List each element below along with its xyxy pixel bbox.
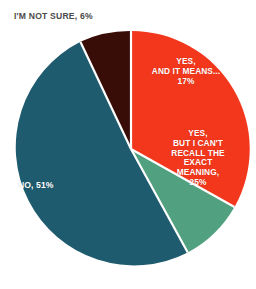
pie-label-im-not-sure: I'M NOT SURE, 6% [14, 11, 93, 21]
pie-label-yes-but-cant-recall: YES, BUT I CAN'T RECALL THE EXACT MEANIN… [152, 129, 244, 188]
pie-label-yes-and-it-means: YES, AND IT MEANS... 17% [140, 57, 232, 86]
pie-chart-page: YES, AND IT MEANS... 17% YES, BUT I CAN'… [0, 0, 256, 289]
pie-chart: YES, AND IT MEANS... 17% YES, BUT I CAN'… [0, 0, 256, 289]
pie-label-no: NO, 51% [18, 180, 92, 190]
